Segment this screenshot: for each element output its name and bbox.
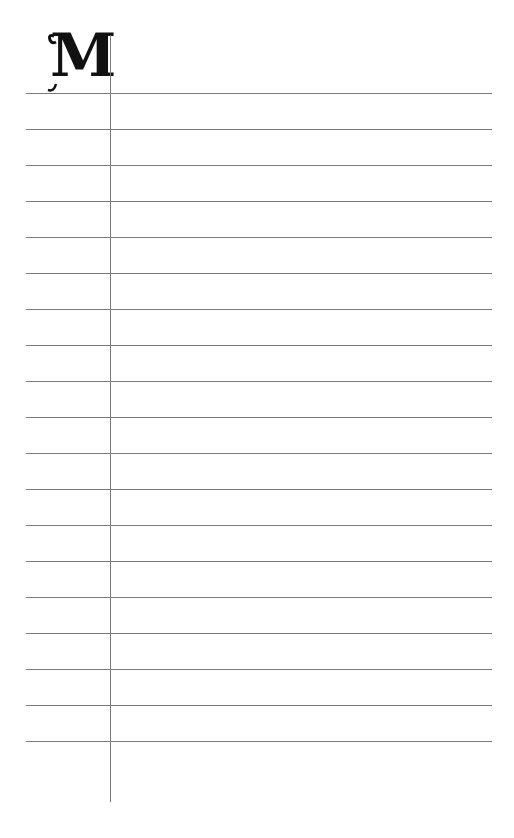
ruled-line [26,705,492,706]
ruled-line [26,597,492,598]
ruled-line [26,381,492,382]
ruled-line [26,669,492,670]
lined-notepad-page: M [0,0,514,838]
monogram: M [44,26,100,96]
ruled-line [26,741,492,742]
ruled-line [26,489,492,490]
ruled-line [26,633,492,634]
ruled-line [26,93,492,94]
ruled-line [26,273,492,274]
ruled-line [26,129,492,130]
ruled-line [26,201,492,202]
ruled-line [26,525,492,526]
ruled-line [26,417,492,418]
monogram-letter: M [50,20,116,90]
ruled-line [26,453,492,454]
margin-line [110,35,111,802]
ruled-line [26,165,492,166]
ruled-line [26,237,492,238]
ruled-line [26,309,492,310]
ruled-line [26,561,492,562]
ruled-line [26,345,492,346]
